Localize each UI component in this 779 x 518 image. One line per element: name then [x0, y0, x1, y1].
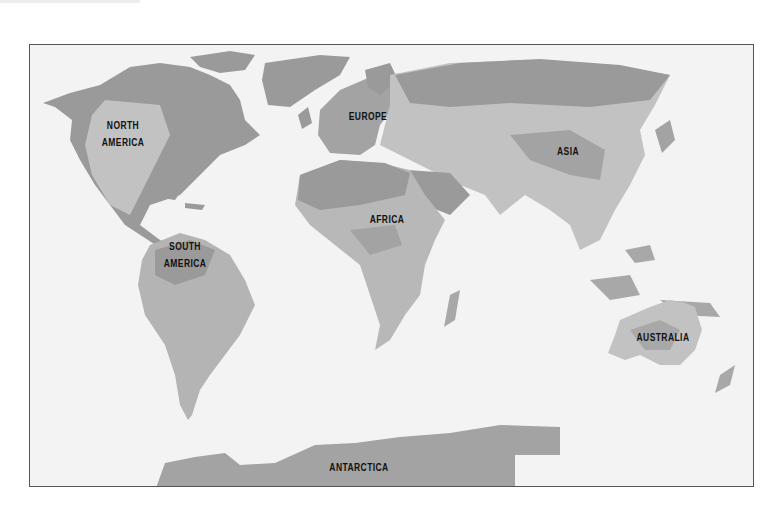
- arctic-islands: [190, 51, 255, 73]
- japan: [655, 120, 675, 153]
- cropped-caption-fragment: [0, 0, 140, 3]
- asia: [380, 59, 720, 317]
- british-isles: [298, 107, 312, 129]
- label-asia: ASIA: [551, 143, 585, 160]
- label-australia: AUSTRALIA: [633, 329, 693, 346]
- antarctica: [156, 425, 560, 487]
- label-europe: EUROPE: [347, 108, 390, 125]
- world-map-frame: NORTH AMERICA SOUTH AMERICA EUROPE AFRIC…: [29, 44, 754, 487]
- label-antarctica: ANTARCTICA: [325, 459, 393, 476]
- madagascar: [444, 290, 460, 327]
- label-south-america: SOUTH AMERICA: [164, 238, 207, 272]
- label-north-america: NORTH AMERICA: [102, 117, 145, 151]
- new-zealand: [715, 365, 735, 393]
- label-africa: AFRICA: [366, 211, 409, 228]
- world-map: [30, 45, 754, 487]
- antarctica-landmass: [156, 425, 560, 487]
